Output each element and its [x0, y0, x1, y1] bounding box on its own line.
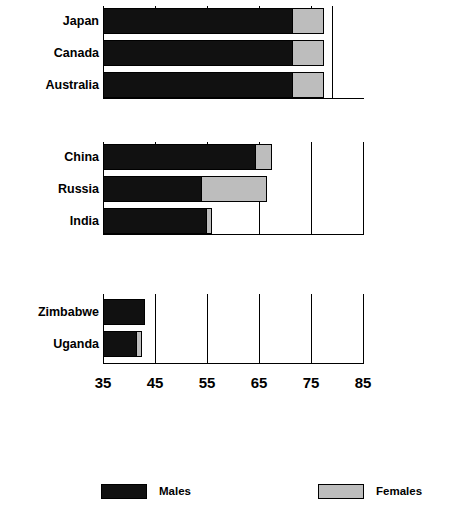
x-tick-label-75: 75 [291, 374, 331, 391]
category-label-zimbabwe: Zimbabwe [0, 305, 99, 319]
category-label-india: India [0, 214, 99, 228]
grouped-bar-chart: Japan Canada Australia [0, 0, 452, 521]
category-label-canada: Canada [0, 46, 99, 60]
gridline-75-group-3 [311, 294, 312, 364]
x-tick-label-45: 45 [135, 374, 175, 391]
category-label-australia: Australia [0, 78, 99, 92]
x-tick-label-85: 85 [343, 374, 383, 391]
tick-bottom-65-group-2 [259, 228, 260, 235]
bar-segment-japan-males [103, 8, 293, 34]
bar-segment-zimbabwe-males [103, 299, 145, 325]
legend-swatch-males [101, 484, 147, 499]
right-border-group-1 [332, 6, 333, 98]
legend-label-females: Females [376, 485, 422, 497]
gridline-45-group-3 [155, 294, 156, 364]
bar-segment-india-males [103, 208, 207, 234]
gridline-85-group-2 [363, 142, 364, 234]
gridline-55-group-3 [207, 294, 208, 364]
chart-group-3: Zimbabwe Uganda [0, 290, 452, 372]
x-tick-label-35: 35 [83, 374, 123, 391]
x-tick-label-65: 65 [239, 374, 279, 391]
bar-segment-russia-males [103, 176, 202, 202]
x-axis-line-group-1 [103, 98, 364, 99]
chart-group-1: Japan Canada Australia [0, 0, 452, 104]
chart-group-2: China Russia India [0, 136, 452, 240]
bar-segment-uganda-males [103, 331, 137, 357]
bar-segment-australia-males [103, 72, 293, 98]
category-label-russia: Russia [0, 182, 99, 196]
bar-segment-canada-males [103, 40, 293, 66]
legend-label-males: Males [159, 485, 191, 497]
category-label-china: China [0, 150, 99, 164]
legend-swatch-females [318, 484, 364, 499]
x-axis-tick-labels: 35 45 55 65 75 85 [0, 374, 452, 396]
x-axis-line-group-3 [103, 363, 364, 364]
gridline-85-group-3 [363, 294, 364, 364]
gridline-65-group-3 [259, 294, 260, 364]
gridline-75-group-2 [311, 142, 312, 234]
bar-segment-china-males [103, 144, 256, 170]
chart-legend: Males Females [0, 484, 452, 508]
category-label-uganda: Uganda [0, 337, 99, 351]
x-axis-line-group-2 [103, 234, 364, 235]
x-tick-label-55: 55 [187, 374, 227, 391]
category-label-japan: Japan [0, 14, 99, 28]
